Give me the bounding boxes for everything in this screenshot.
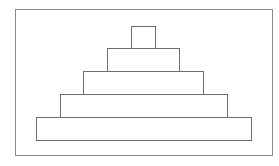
pyramid-level-2 bbox=[107, 48, 180, 72]
pyramid-level-3 bbox=[83, 71, 204, 95]
pyramid-level-1 bbox=[131, 26, 156, 49]
pyramid-level-5 bbox=[36, 117, 252, 141]
pyramid-level-4 bbox=[60, 94, 228, 118]
